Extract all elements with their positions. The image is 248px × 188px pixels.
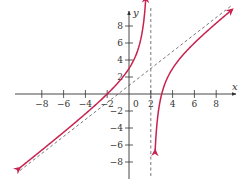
y-tick-label: −6	[110, 140, 124, 150]
asymptotes	[20, 5, 233, 178]
y-tick-label: −4	[110, 123, 124, 133]
x-tick-label: 4	[170, 99, 176, 109]
x-tick-label: −8	[35, 99, 49, 109]
function-curves	[20, 0, 233, 168]
slant-asymptote	[20, 5, 233, 171]
curve-left-branch	[20, 0, 146, 168]
y-tick-label: −2	[110, 106, 123, 116]
x-tick-label: 8	[213, 99, 219, 109]
y-tick-label: 6	[117, 38, 123, 48]
x-tick-label: 6	[192, 99, 198, 109]
x-tick-label: 2	[148, 99, 154, 109]
y-tick-label: −8	[110, 157, 124, 167]
axes	[15, 11, 236, 179]
curve-right-branch	[155, 9, 232, 150]
x-tick-label: 0	[133, 99, 139, 109]
function-graph: −8−6−4−202468−8−6−4−22468 x y	[0, 0, 248, 188]
x-axis-label: x	[232, 81, 238, 92]
y-axis-label: y	[132, 7, 139, 18]
x-tick-label: −6	[57, 99, 71, 109]
y-tick-label: 8	[117, 21, 123, 31]
x-tick-label: −4	[79, 99, 93, 109]
y-tick-label: 4	[117, 55, 123, 65]
